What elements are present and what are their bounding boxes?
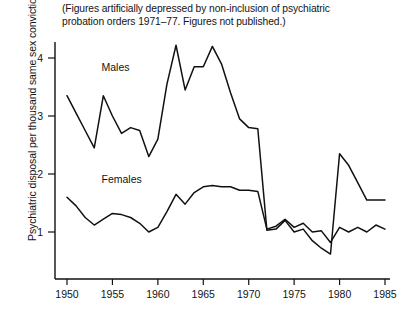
x-tick-label: 1970 [237,288,261,300]
axes [55,42,390,279]
x-tick-label: 1950 [55,288,79,300]
x-tick-label: 1965 [192,288,216,300]
y-axis-ticks: 1234 [37,52,55,238]
series-line-males [67,45,385,254]
y-tick-label: 4 [37,52,43,64]
x-tick-label: 1980 [328,288,352,300]
series-label-females: Females [102,173,142,185]
y-tick-label: 1 [37,226,43,238]
x-tick-label: 1955 [101,288,125,300]
chart-figure: (Figures artificially depressed by non-i… [0,0,414,324]
x-tick-label: 1985 [373,288,397,300]
y-tick-label: 2 [37,168,43,180]
y-tick-label: 3 [37,110,43,122]
chart-plot-area: 1234 19501955196019651970197519801985 Ma… [0,0,414,324]
series-annotations: MalesFemales [102,61,142,186]
x-tick-label: 1975 [282,288,306,300]
x-axis-ticks: 19501955196019651970197519801985 [55,279,397,300]
series-label-males: Males [102,61,130,73]
data-series-group [67,45,385,254]
series-line-females [67,186,385,243]
x-tick-label: 1960 [146,288,170,300]
